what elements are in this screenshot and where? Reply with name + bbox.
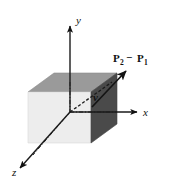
vector-label-p2-subscript: 2 xyxy=(120,58,124,67)
vector-diagram: y x z P 2 − P 1 v xyxy=(0,0,175,183)
vector-label-p1-subscript: 1 xyxy=(144,58,148,67)
z-axis-label: z xyxy=(11,166,17,178)
cube-left-face xyxy=(28,92,91,143)
vector-label-p1: P xyxy=(137,52,144,64)
vector-label-p2: P xyxy=(113,52,120,64)
y-axis-label: y xyxy=(75,14,81,26)
vector-label-minus: − xyxy=(126,51,132,63)
figure-container: y x z P 2 − P 1 v xyxy=(0,0,175,183)
vector-label-v: v xyxy=(93,91,98,103)
x-axis-label: x xyxy=(142,106,148,118)
